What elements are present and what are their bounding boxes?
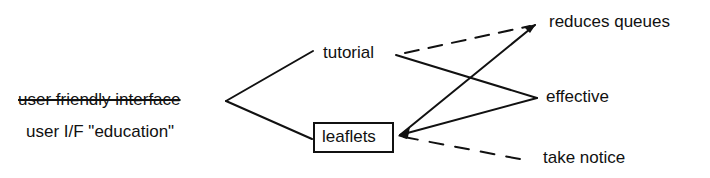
node-effective: effective xyxy=(546,87,609,107)
root-label: user I/F "education" xyxy=(26,122,174,142)
edge-root-leaflets xyxy=(226,101,312,139)
edge-tutorial-reduces-queues xyxy=(405,26,530,53)
struck-root-label: user friendly interface xyxy=(18,90,181,110)
node-take-notice: take notice xyxy=(543,148,625,168)
edge-tutorial-effective xyxy=(396,55,537,98)
edge-leaflets-take-notice xyxy=(404,137,530,161)
node-leaflets: leaflets xyxy=(322,127,376,147)
edge-root-tutorial xyxy=(226,51,313,101)
node-tutorial: tutorial xyxy=(323,43,374,63)
node-reduces-queues: reduces queues xyxy=(549,12,670,32)
edge-reduces-queues-leaflets xyxy=(400,25,535,135)
edge-effective-leaflets xyxy=(400,98,537,135)
